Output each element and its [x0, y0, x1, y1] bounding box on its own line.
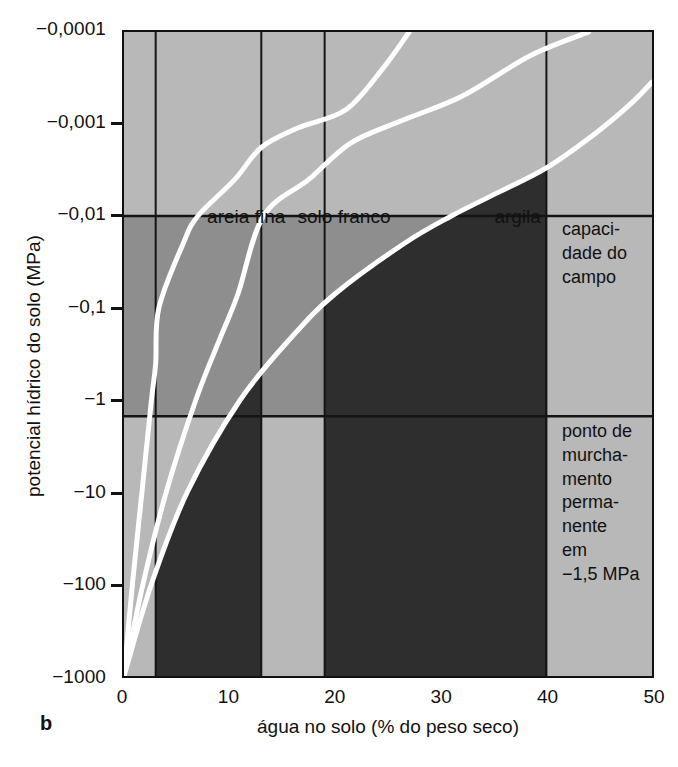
x-tick-label: 0: [117, 686, 128, 708]
x-tick-label: 10: [218, 686, 239, 708]
note-line: dade do: [562, 242, 658, 266]
note-line: nente: [562, 515, 658, 539]
field-capacity-note: capaci-dade docampo: [562, 218, 658, 289]
y-tick-label: −1000: [0, 666, 106, 688]
x-tick-label: 50: [643, 686, 664, 708]
note-line: murcha-: [562, 444, 658, 468]
y-tick-label: −1: [0, 388, 106, 410]
y-tick-mark: [111, 307, 124, 310]
figure-panel-b: −0,0001−0,001−0,01−0,1−1−10−100−1000 pot…: [0, 0, 678, 767]
x-axis-label: água no solo (% do peso seco): [122, 716, 654, 738]
y-tick-label: −100: [0, 573, 106, 595]
curve-label-areia-fina: areia fina: [207, 206, 285, 228]
note-line: mento: [562, 468, 658, 492]
y-tick-label: −0,001: [0, 111, 106, 133]
y-tick-label: −10: [0, 481, 106, 503]
y-tick-mark: [111, 122, 124, 125]
x-tick-label: 30: [431, 686, 452, 708]
y-tick-mark: [111, 584, 124, 587]
y-tick-label: −0,0001: [0, 18, 106, 40]
y-tick-mark: [111, 399, 124, 402]
curve-label-solo-franco: solo franco: [298, 206, 391, 228]
note-line: perma-: [562, 491, 658, 515]
curve-label-argila: argila: [494, 206, 540, 228]
note-line: capaci-: [562, 218, 658, 242]
panel-letter: b: [40, 712, 52, 735]
x-tick-label: 20: [324, 686, 345, 708]
note-line: campo: [562, 266, 658, 290]
wilting-point-note: ponto demurcha-mentoperma-nenteem−1,5 MP…: [562, 420, 658, 586]
note-line: ponto de: [562, 420, 658, 444]
y-tick-label: −0,01: [0, 203, 106, 225]
y-tick-mark: [111, 214, 124, 217]
y-axis-label: potencial hídrico do solo (MPa): [23, 166, 45, 566]
note-line: em: [562, 539, 658, 563]
note-line: −1,5 MPa: [562, 563, 658, 587]
x-tick-label: 40: [537, 686, 558, 708]
y-tick-label: −0,1: [0, 296, 106, 318]
y-tick-mark: [111, 492, 124, 495]
